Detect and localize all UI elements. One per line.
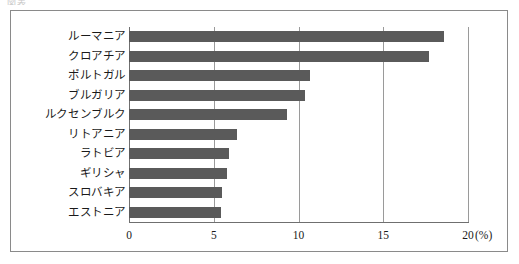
category-label: ラトビア	[8, 144, 126, 164]
bar-row	[129, 27, 444, 47]
bar-row	[129, 86, 305, 106]
category-label: ギリシャ	[8, 164, 126, 184]
bar	[129, 90, 305, 101]
bar-row	[129, 203, 221, 223]
bar	[129, 207, 221, 218]
gridline-20	[468, 27, 469, 222]
bar	[129, 187, 222, 198]
category-label: ポルトガル	[8, 66, 126, 86]
category-label: ブルガリア	[8, 86, 126, 106]
bar-row	[129, 164, 227, 184]
bar	[129, 51, 429, 62]
bar-row	[129, 125, 237, 145]
category-label: ルクセンブルク	[8, 105, 126, 125]
bar	[129, 148, 229, 159]
category-label: リトアニア	[8, 125, 126, 145]
category-label: スロバキア	[8, 183, 126, 203]
x-axis-line	[129, 222, 469, 223]
bar	[129, 70, 310, 81]
bar-row	[129, 66, 310, 86]
x-tick-label-10: 10	[279, 228, 319, 242]
bar	[129, 168, 227, 179]
bar-row	[129, 47, 429, 67]
category-label: ルーマニア	[8, 27, 126, 47]
bar-chart: ルーマニアクロアチアポルトガルブルガリアルクセンブルクリトアニアラトビアギリシャ…	[0, 0, 519, 264]
category-label: エストニア	[8, 203, 126, 223]
category-label: クロアチア	[8, 47, 126, 67]
x-tick-label-15: 15	[363, 228, 403, 242]
bar-row	[129, 105, 287, 125]
bar	[129, 31, 444, 42]
x-tick-label-5: 5	[194, 228, 234, 242]
bar-row	[129, 183, 222, 203]
x-tick-label-0: 0	[109, 228, 149, 242]
bar	[129, 109, 287, 120]
x-axis-unit-label: (%)	[475, 228, 492, 242]
bar	[129, 129, 237, 140]
bar-row	[129, 144, 229, 164]
